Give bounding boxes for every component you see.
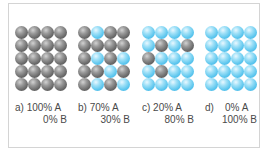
atom-a-icon [91, 39, 104, 52]
atom-b-icon [168, 39, 181, 52]
atom-a-icon [41, 26, 54, 39]
atom-a-icon [181, 39, 194, 52]
atom-a-icon [78, 26, 91, 39]
atom-a-icon [117, 39, 130, 52]
atom-b-icon [142, 78, 155, 91]
atom-b-icon [231, 39, 244, 52]
atom-b-icon [142, 65, 155, 78]
panel-c: c) 20% A 80% B [142, 26, 196, 91]
atom-a-icon [78, 52, 91, 65]
label-d-line1: d) 0% A [205, 102, 265, 114]
atom-b-icon [155, 78, 168, 91]
atom-a-icon [117, 65, 130, 78]
atom-a-icon [54, 52, 67, 65]
label-c-line2: 80% B [142, 114, 202, 126]
atom-b-icon [104, 65, 117, 78]
atom-b-icon [168, 78, 181, 91]
atom-b-icon [181, 52, 194, 65]
atom-a-icon [54, 78, 67, 91]
label-a-line1: a) 100% A [15, 102, 75, 114]
atom-b-icon [181, 26, 194, 39]
atom-a-icon [78, 78, 91, 91]
label-b: b) 70% A 30% B [78, 102, 138, 126]
atom-grid-d [205, 26, 259, 91]
atom-a-icon [155, 65, 168, 78]
atom-b-icon [117, 78, 130, 91]
atom-a-icon [54, 39, 67, 52]
atom-b-icon [181, 78, 194, 91]
panel-a: a) 100% A 0% B [15, 26, 69, 91]
atom-b-icon [181, 65, 194, 78]
atom-a-icon [15, 65, 28, 78]
atom-b-icon [91, 78, 104, 91]
atom-a-icon [28, 26, 41, 39]
label-c-line1: c) 20% A [142, 102, 202, 114]
atom-a-icon [28, 39, 41, 52]
atom-b-icon [218, 65, 231, 78]
atom-b-icon [168, 52, 181, 65]
label-d: d) 0% A 100% B [205, 102, 265, 126]
atom-b-icon [231, 78, 244, 91]
atom-a-icon [104, 26, 117, 39]
atom-b-icon [117, 52, 130, 65]
atom-b-icon [205, 26, 218, 39]
label-b-line2: 30% B [78, 114, 138, 126]
atom-a-icon [54, 65, 67, 78]
atom-a-icon [28, 65, 41, 78]
atom-grid-c [142, 26, 196, 91]
label-c: c) 20% A 80% B [142, 102, 202, 126]
atom-a-icon [78, 65, 91, 78]
label-a: a) 100% A 0% B [15, 102, 75, 126]
atom-b-icon [244, 78, 257, 91]
atom-b-icon [231, 65, 244, 78]
panel-b: b) 70% A 30% B [78, 26, 132, 91]
atom-a-icon [104, 39, 117, 52]
atom-b-icon [244, 26, 257, 39]
atom-b-icon [218, 39, 231, 52]
atom-a-icon [15, 52, 28, 65]
atom-a-icon [28, 78, 41, 91]
atom-b-icon [231, 26, 244, 39]
atom-b-icon [155, 52, 168, 65]
atom-b-icon [91, 52, 104, 65]
atom-a-icon [104, 78, 117, 91]
atom-a-icon [41, 52, 54, 65]
atom-grid-a [15, 26, 69, 91]
atom-a-icon [41, 78, 54, 91]
atom-a-icon [142, 52, 155, 65]
atom-a-icon [117, 26, 130, 39]
atom-b-icon [218, 52, 231, 65]
label-a-line2: 0% B [15, 114, 75, 126]
atom-b-icon [205, 52, 218, 65]
atom-a-icon [91, 65, 104, 78]
atom-a-icon [15, 78, 28, 91]
atom-b-icon [205, 65, 218, 78]
atom-a-icon [15, 39, 28, 52]
atom-a-icon [28, 52, 41, 65]
atom-b-icon [91, 26, 104, 39]
atom-b-icon [142, 39, 155, 52]
atom-b-icon [168, 26, 181, 39]
atom-b-icon [205, 78, 218, 91]
atom-b-icon [168, 65, 181, 78]
atom-b-icon [244, 39, 257, 52]
atom-a-icon [155, 39, 168, 52]
atom-a-icon [78, 39, 91, 52]
atom-a-icon [41, 39, 54, 52]
atom-b-icon [231, 52, 244, 65]
atom-a-icon [54, 26, 67, 39]
label-d-line2: 100% B [205, 114, 265, 126]
label-b-line1: b) 70% A [78, 102, 138, 114]
atom-b-icon [218, 26, 231, 39]
atom-b-icon [155, 26, 168, 39]
atom-a-icon [15, 26, 28, 39]
atom-a-icon [104, 52, 117, 65]
atom-grid-b [78, 26, 132, 91]
atom-a-icon [41, 65, 54, 78]
atom-b-icon [205, 39, 218, 52]
atom-b-icon [244, 65, 257, 78]
atom-b-icon [244, 52, 257, 65]
atom-b-icon [218, 78, 231, 91]
atom-b-icon [142, 26, 155, 39]
panel-d: d) 0% A 100% B [205, 26, 259, 91]
